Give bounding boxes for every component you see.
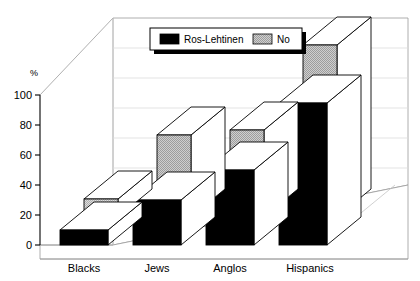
y-axis-unit-label: %: [30, 68, 38, 78]
bar-chart-3d: 100 80 60 40 20 0 %: [0, 0, 420, 281]
chart-container: 100 80 60 40 20 0 %: [0, 0, 420, 281]
x-label-blacks: Blacks: [68, 262, 101, 274]
legend-item-no[interactable]: No: [253, 34, 290, 45]
black-swatch-icon: [160, 34, 179, 44]
y-tick-label-20: 20: [20, 209, 32, 221]
y-tick-label-40: 40: [20, 179, 32, 191]
y-tick-label-100: 100: [14, 89, 32, 101]
x-label-hispanics: Hispanics: [286, 262, 334, 274]
x-label-jews: Jews: [144, 262, 170, 274]
gray-hatch-swatch-icon: [253, 34, 272, 44]
legend-label-ros-lehtinen: Ros-Lehtinen: [184, 34, 243, 45]
x-label-anglos: Anglos: [213, 262, 247, 274]
legend[interactable]: Ros-Lehtinen No: [150, 28, 306, 54]
bar-side: [327, 75, 361, 245]
y-tick-label-80: 80: [20, 119, 32, 131]
y-tick-label-60: 60: [20, 149, 32, 161]
legend-label-no: No: [277, 34, 290, 45]
legend-item-ros-lehtinen[interactable]: Ros-Lehtinen: [160, 34, 243, 45]
y-tick-label-0: 0: [26, 239, 32, 251]
bar-front: [60, 230, 108, 245]
